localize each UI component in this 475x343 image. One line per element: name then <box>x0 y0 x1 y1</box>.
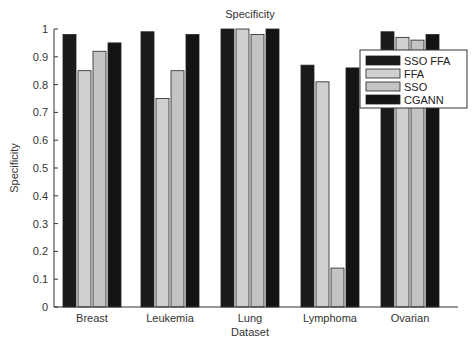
x-axis: BreastLeukemiaLungLymphomaOvarian <box>54 307 458 324</box>
y-tick-label: 0.6 <box>33 134 48 146</box>
bar-sso-leukemia <box>171 71 184 307</box>
legend-label: SSO FFA <box>404 55 451 67</box>
legend-swatch <box>366 95 400 104</box>
bar-cgann-leukemia <box>186 35 199 307</box>
y-tick-label: 0.3 <box>33 218 48 230</box>
y-axis: 00.10.20.30.40.50.60.70.80.91 <box>33 23 58 313</box>
bar-sso-lung <box>251 35 264 307</box>
bar-sso-breast <box>93 51 106 307</box>
legend-swatch <box>366 56 400 65</box>
x-tick-label: Lymphoma <box>303 312 358 324</box>
bar-cgann-breast <box>108 43 121 307</box>
bar-ffa-lung <box>236 29 249 307</box>
y-tick-label: 0.7 <box>33 106 48 118</box>
y-tick-label: 0 <box>42 301 48 313</box>
specificity-bar-chart: Specificity 00.10.20.30.40.50.60.70.80.9… <box>0 0 475 343</box>
x-tick-label: Lung <box>238 312 262 324</box>
bar-cgann-lung <box>266 29 279 307</box>
y-tick-label: 0.9 <box>33 51 48 63</box>
y-axis-label: Specificity <box>8 143 20 193</box>
legend-label: CGANN <box>404 94 444 106</box>
y-tick-label: 0.1 <box>33 273 48 285</box>
legend-label: SSO <box>404 81 428 93</box>
x-axis-label: Dataset <box>231 326 269 338</box>
x-tick-label: Breast <box>76 312 108 324</box>
y-tick-label: 0.2 <box>33 245 48 257</box>
bar-sso-lymphoma <box>331 268 344 307</box>
bar-sso-ffa-lymphoma <box>301 65 314 307</box>
y-tick-label: 0.4 <box>33 190 48 202</box>
bar-ffa-lymphoma <box>316 82 329 307</box>
y-tick-label: 0.8 <box>33 79 48 91</box>
y-tick-label: 0.5 <box>33 162 48 174</box>
bar-sso-ffa-breast <box>63 35 76 307</box>
legend-label: FFA <box>404 68 425 80</box>
bar-ffa-leukemia <box>156 99 169 308</box>
y-tick-label: 1 <box>42 23 48 35</box>
x-tick-label: Ovarian <box>391 312 430 324</box>
bar-cgann-lymphoma <box>346 68 359 307</box>
legend-swatch <box>366 82 400 91</box>
legend-swatch <box>366 69 400 78</box>
x-tick-label: Leukemia <box>146 312 195 324</box>
legend: SSO FFAFFASSOCGANN <box>360 50 467 108</box>
bar-ffa-breast <box>78 71 91 307</box>
bar-sso-ffa-leukemia <box>141 32 154 307</box>
bar-sso-ffa-lung <box>221 29 234 307</box>
chart-title: Specificity <box>225 8 275 20</box>
